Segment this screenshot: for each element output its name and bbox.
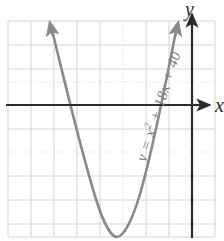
x-axis-label: x [215, 95, 224, 115]
parabola-graph-figure: y x y = x2 + 18x + 40 [0, 0, 224, 241]
y-axis-label: y [185, 0, 194, 19]
graph-canvas [0, 0, 224, 241]
